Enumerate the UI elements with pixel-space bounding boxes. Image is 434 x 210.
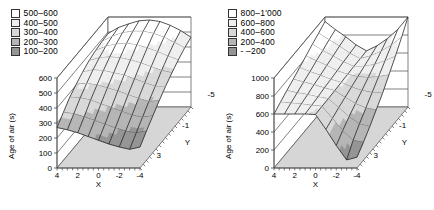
x-tick-label: -2 [333,171,341,180]
legend-left: 500–600400–500300–400200–300100–200 [11,9,58,56]
panel-right: 02004006008001000420-2-43-1-5XYAge of ai… [217,0,434,210]
z-tick-label: 200 [39,134,53,143]
legend-label: 200–400 [241,38,276,47]
legend-label: 800–1'000 [241,9,282,18]
legend-label: 200–300 [24,38,59,47]
legend-item: 400–500 [11,19,58,28]
z-axis-title: Age of air (s) [224,113,233,159]
legend-swatch [11,38,20,47]
legend-label: 300–400 [24,28,59,37]
legend-item: 100–200 [11,47,58,56]
x-tick-label: 0 [313,171,318,180]
x-tick-label: -2 [116,171,124,180]
legend-swatch [228,47,237,56]
x-tick-label: 2 [76,171,81,180]
y-tick-label: -1 [399,121,407,130]
z-tick-label: 1000 [251,74,269,83]
z-tick-label: 0 [48,164,53,173]
y-tick-label: -5 [425,90,433,99]
legend-label: 600–800 [241,19,276,28]
z-tick-label: 800 [256,92,270,101]
y-axis-title: Y [185,138,191,147]
x-tick-label: 0 [96,171,101,180]
legend-item: 600–800 [228,19,282,28]
x-tick-label: 4 [272,171,277,180]
legend-item: 800–1'000 [228,9,282,18]
x-tick-label: -4 [353,171,361,180]
z-tick-label: 0 [265,164,270,173]
x-tick-label: -4 [136,171,144,180]
legend-swatch [11,9,20,18]
y-tick-label: 3 [157,151,162,160]
legend-swatch [11,28,20,37]
legend-label: 400–600 [241,28,276,37]
legend-swatch [11,47,20,56]
x-tick-label: 2 [293,171,298,180]
x-axis-title: X [313,180,319,189]
x-axis-title: X [96,180,102,189]
z-axis-title: Age of air (s) [7,113,16,159]
panel-left: 0100200300400500600420-2-43-1-5XYAge of … [0,0,217,210]
z-tick-label: 400 [256,128,270,137]
legend-item: 400–600 [228,28,282,37]
z-tick-label: 400 [39,104,53,113]
legend-label: 100–200 [24,47,59,56]
x-tick-label: 4 [55,171,60,180]
legend-item: 200–400 [228,38,282,47]
y-axis-title: Y [402,138,408,147]
y-tick-label: -1 [182,121,190,130]
z-tick-label: 600 [39,74,53,83]
y-tick-label: 3 [374,151,379,160]
legend-right: 800–1'000600–800400–600200–400- –200 [228,9,282,56]
legend-item: 500–600 [11,9,58,18]
legend-swatch [228,9,237,18]
legend-item: - –200 [228,47,282,56]
legend-swatch [228,38,237,47]
z-tick-label: 300 [39,119,53,128]
legend-label: 500–600 [24,9,59,18]
legend-item: 300–400 [11,28,58,37]
legend-label: 400–500 [24,19,59,28]
z-tick-label: 600 [256,110,270,119]
y-tick-label: -5 [208,90,216,99]
legend-swatch [228,28,237,37]
legend-swatch [11,19,20,28]
figure-two-surface-charts: 0100200300400500600420-2-43-1-5XYAge of … [0,0,434,210]
z-tick-label: 100 [39,149,53,158]
z-tick-label: 200 [256,146,270,155]
legend-swatch [228,19,237,28]
z-tick-label: 500 [39,89,53,98]
legend-item: 200–300 [11,38,58,47]
legend-label: - –200 [241,47,266,56]
